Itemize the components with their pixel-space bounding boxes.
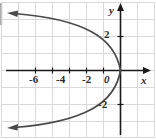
- coordinate-plane-svg: [0, 0, 156, 139]
- x-axis-arrow-right-icon: [143, 67, 151, 74]
- x-axis-label: x: [141, 75, 147, 86]
- parabola-upper-branch: [14, 14, 121, 71]
- x-tick-label-minus4: -4: [56, 74, 65, 85]
- x-tick-label-minus2: -2: [82, 74, 91, 85]
- page-edge-artifact: [0, 3, 3, 25]
- curve-arrow-upper-left-icon: [7, 11, 18, 18]
- y-tick-label-minus2: -2: [98, 99, 107, 110]
- graph-figure: -6 -4 -2 0 2 -2 x y: [0, 0, 156, 139]
- x-tick-label-minus6: -6: [29, 74, 38, 85]
- y-tick-label-2: 2: [104, 29, 110, 40]
- curve-arrow-lower-left-icon: [7, 124, 18, 131]
- x-tick-label-zero: 0: [104, 74, 110, 85]
- y-axis-arrow-up-icon: [117, 3, 124, 11]
- y-axis-label: y: [109, 5, 114, 16]
